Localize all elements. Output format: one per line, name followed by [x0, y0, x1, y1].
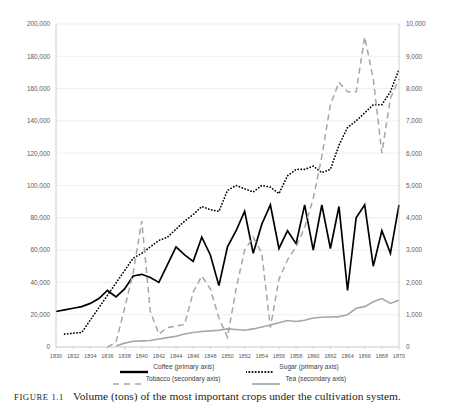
y-axis-left-tick-label: 140,000 — [27, 117, 51, 124]
x-axis-tick-label: 1868 — [376, 353, 388, 359]
x-axis-labels: 1830183218341836183818401842184418461848… — [50, 347, 405, 359]
y-axis-right-tick-label: 10,000 — [406, 20, 426, 27]
x-axis-tick-label: 1846 — [187, 353, 199, 359]
legend-coffee-label: Coffee (primary axis) — [153, 363, 214, 370]
series-sugar — [65, 69, 399, 334]
x-axis-tick-label: 1842 — [153, 353, 165, 359]
x-axis-tick-label: 1856 — [273, 353, 285, 359]
figure-number: FIGURE 1.1 — [14, 392, 64, 402]
legend-row-2: Tobacco (secondary axis) Tea (secondary … — [0, 372, 459, 384]
x-axis-tick-label: 1834 — [84, 353, 96, 359]
y-axis-right-tick-label: 4,000 — [406, 214, 422, 221]
legend-sugar-swatch — [246, 362, 274, 370]
x-axis-tick-label: 1840 — [136, 353, 148, 359]
y-axis-right-tick-label: 0 — [406, 343, 410, 350]
y-axis-left-tick-label: 60,000 — [30, 246, 50, 253]
x-axis-tick-label: 1854 — [256, 353, 268, 359]
y-axis-right-tick-label: 6,000 — [406, 150, 422, 157]
x-axis-tick-label: 1866 — [358, 353, 370, 359]
gridlines-group — [56, 24, 399, 347]
y-axis-left-tick-label: 180,000 — [27, 53, 51, 60]
y-axis-right-tick-label: 8,000 — [406, 85, 422, 92]
legend-row-1: Coffee (primary axis) Sugar (primary axi… — [0, 360, 459, 372]
caption-text: Volume (tons) of the most important crop… — [73, 390, 401, 402]
x-axis-tick-label: 1844 — [170, 353, 182, 359]
legend-tea-swatch — [252, 374, 280, 382]
line-chart-svg: 020,00040,00060,00080,000100,000120,0001… — [0, 0, 459, 360]
legend-tobacco-line-icon — [113, 380, 141, 388]
y-axis-left-tick-label: 80,000 — [30, 214, 50, 221]
legend-coffee[interactable]: Coffee (primary axis) — [120, 362, 214, 370]
figure-container: 020,00040,00060,00080,000100,000120,0001… — [0, 0, 459, 406]
y-axis-right-tick-label: 5,000 — [406, 182, 422, 189]
y-axis-left-tick-label: 120,000 — [27, 150, 51, 157]
y-axis-right-tick-label: 2,000 — [406, 279, 422, 286]
legend-tea[interactable]: Tea (secondary axis) — [252, 374, 346, 382]
y-axis-left-tick-label: 100,000 — [27, 182, 51, 189]
x-axis-tick-label: 1858 — [290, 353, 302, 359]
y-axis-right-tick-label: 1,000 — [406, 311, 422, 318]
chart-legend: Coffee (primary axis) Sugar (primary axi… — [0, 360, 459, 388]
y-axis-left-tick-label: 0 — [46, 343, 50, 350]
x-axis-tick-label: 1860 — [307, 353, 319, 359]
y-axis-right-tick-label: 7,000 — [406, 117, 422, 124]
x-axis-tick-label: 1852 — [238, 353, 250, 359]
series-tea — [116, 299, 399, 346]
chart-plot-area: 020,00040,00060,00080,000100,000120,0001… — [0, 0, 459, 360]
y-axis-right-tick-label: 3,000 — [406, 246, 422, 253]
legend-sugar-label: Sugar (primary axis) — [279, 363, 338, 370]
x-axis-tick-label: 1862 — [324, 353, 336, 359]
x-axis-tick-label: 1836 — [101, 353, 113, 359]
y-axis-left-labels: 020,00040,00060,00080,000100,000120,0001… — [27, 20, 51, 350]
legend-tobacco[interactable]: Tobacco (secondary axis) — [113, 374, 221, 382]
y-axis-left-tick-label: 20,000 — [30, 311, 50, 318]
legend-tobacco-swatch — [113, 374, 141, 382]
x-axis-tick-label: 1830 — [50, 353, 62, 359]
y-axis-right-labels: 01,0002,0003,0004,0005,0006,0007,0008,00… — [406, 20, 426, 350]
legend-sugar[interactable]: Sugar (primary axis) — [246, 362, 338, 370]
x-axis-tick-label: 1870 — [393, 353, 405, 359]
y-axis-left-tick-label: 200,000 — [27, 20, 51, 27]
legend-tobacco-label: Tobacco (secondary axis) — [146, 375, 221, 382]
y-axis-right-tick-label: 9,000 — [406, 53, 422, 60]
data-series-group — [56, 37, 399, 347]
x-axis-tick-label: 1832 — [67, 353, 79, 359]
x-axis-tick-label: 1848 — [204, 353, 216, 359]
legend-tea-line-icon — [252, 380, 280, 388]
legend-coffee-swatch — [120, 362, 148, 370]
y-axis-left-tick-label: 160,000 — [27, 85, 51, 92]
legend-tea-label: Tea (secondary axis) — [285, 375, 346, 382]
x-axis-tick-label: 1850 — [221, 353, 233, 359]
x-axis-tick-label: 1838 — [118, 353, 130, 359]
x-axis-tick-label: 1864 — [341, 353, 353, 359]
y-axis-left-tick-label: 40,000 — [30, 279, 50, 286]
figure-caption: FIGURE 1.1Volume (tons) of the most impo… — [0, 390, 459, 402]
